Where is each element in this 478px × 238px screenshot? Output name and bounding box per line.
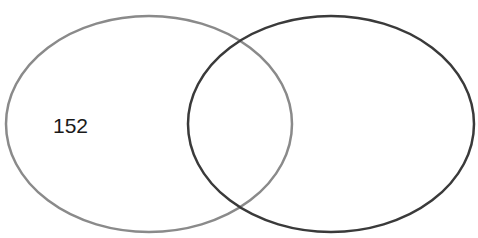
left-set-count-label: 152	[53, 115, 88, 136]
venn-diagram: 152	[0, 0, 478, 238]
left-set-ellipse	[6, 16, 292, 232]
right-set-ellipse	[188, 16, 474, 232]
